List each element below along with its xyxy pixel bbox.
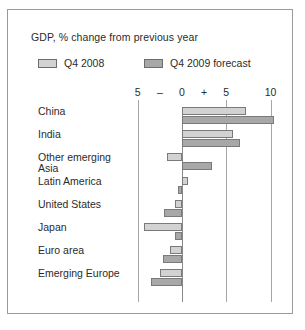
category-label: Japan bbox=[38, 222, 130, 233]
chart-bar bbox=[182, 107, 246, 115]
x-axis-tick-label: 0 bbox=[170, 86, 194, 98]
chart-bar bbox=[182, 139, 240, 147]
x-axis-sign-marker: – bbox=[148, 86, 172, 98]
chart-bar bbox=[164, 209, 182, 217]
category-label: Emerging Europe bbox=[38, 268, 130, 279]
chart-figure: GDP, % change from previous year Q4 2008… bbox=[7, 9, 293, 314]
category-label: United States bbox=[38, 199, 130, 210]
x-axis-tick-label: 10 bbox=[259, 86, 283, 98]
plot-area: 50510–+ChinaIndiaOther emerging AsiaLati… bbox=[8, 10, 294, 315]
chart-bar bbox=[160, 269, 182, 277]
chart-bar bbox=[144, 223, 182, 231]
x-gridline bbox=[271, 107, 272, 302]
chart-bar bbox=[175, 232, 182, 240]
chart-bar bbox=[151, 278, 182, 286]
chart-bar bbox=[175, 200, 182, 208]
x-axis-tick-label: 5 bbox=[126, 86, 150, 98]
x-axis-tick-label: 5 bbox=[214, 86, 238, 98]
category-label: Other emerging Asia bbox=[38, 152, 130, 174]
x-axis-sign-marker: + bbox=[192, 86, 216, 98]
chart-bar bbox=[167, 153, 182, 161]
chart-bar bbox=[182, 162, 212, 170]
chart-bar bbox=[182, 116, 274, 124]
chart-bar bbox=[163, 255, 182, 263]
x-axis-tick-mark bbox=[271, 100, 272, 107]
chart-bar bbox=[182, 177, 188, 185]
x-axis-tick-mark bbox=[226, 100, 227, 107]
category-label: China bbox=[38, 106, 130, 117]
chart-bar bbox=[178, 186, 182, 194]
chart-bar bbox=[170, 246, 182, 254]
x-axis-tick-mark bbox=[138, 100, 139, 107]
category-label: India bbox=[38, 129, 130, 140]
x-gridline bbox=[138, 107, 139, 302]
category-label: Latin America bbox=[38, 176, 130, 187]
category-label: Euro area bbox=[38, 245, 130, 256]
chart-bar bbox=[182, 130, 233, 138]
